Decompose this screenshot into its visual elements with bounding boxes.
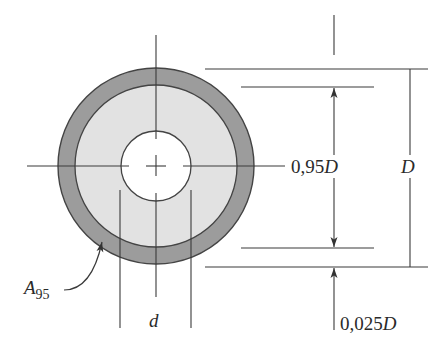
cross-section-diagram xyxy=(0,0,446,355)
label-d: d xyxy=(149,311,159,330)
label-A95-subscript: 95 xyxy=(36,287,50,302)
label-D: D xyxy=(401,157,415,176)
label-A95-symbol: A xyxy=(24,277,36,298)
center-lines xyxy=(27,35,285,297)
label-A95: A95 xyxy=(24,278,50,297)
label-0025D-symbol: D xyxy=(383,313,397,334)
a95-leader-arrow xyxy=(64,242,102,290)
label-095D: 0,95D xyxy=(291,157,338,176)
label-0025D: 0,025D xyxy=(340,314,396,333)
label-095D-symbol: D xyxy=(324,156,338,177)
label-095D-value: 0,95 xyxy=(291,156,324,177)
label-0025D-value: 0,025 xyxy=(340,313,383,334)
